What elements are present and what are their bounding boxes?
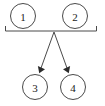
node-2-label: 2 xyxy=(72,11,78,23)
diagram-canvas: 1 2 3 4 xyxy=(0,0,105,106)
node-1-label: 1 xyxy=(20,11,26,23)
edge-line-to-node-3 xyxy=(41,32,55,70)
node-3-label: 3 xyxy=(32,82,38,94)
node-4-label: 4 xyxy=(70,82,76,94)
node-arrow-diagram: 1 2 3 4 xyxy=(0,0,105,106)
node-4[interactable]: 4 xyxy=(61,75,86,100)
node-3[interactable]: 3 xyxy=(23,75,48,100)
node-2[interactable]: 2 xyxy=(63,4,88,29)
edge-line-to-node-4 xyxy=(54,32,68,70)
node-1[interactable]: 1 xyxy=(11,4,36,29)
